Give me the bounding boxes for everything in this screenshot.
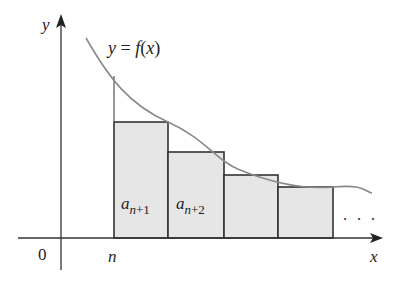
rectangle-a-n-plus-1 [114,122,168,238]
y-axis-label: y [40,15,50,34]
n-tick-label: n [108,247,117,266]
equals: = [116,38,135,58]
rectangles [114,122,333,238]
origin-label: 0 [38,245,47,264]
rectangle-4 [278,187,333,238]
integral-test-diagram: y x 0 n y = f(x) an+1 an+2 . . . [0,0,405,289]
x-axis-label: x [369,247,378,266]
curve-label: y = f(x) [106,38,160,59]
ellipsis: . . . [343,206,378,223]
rectangle-3 [224,175,278,238]
